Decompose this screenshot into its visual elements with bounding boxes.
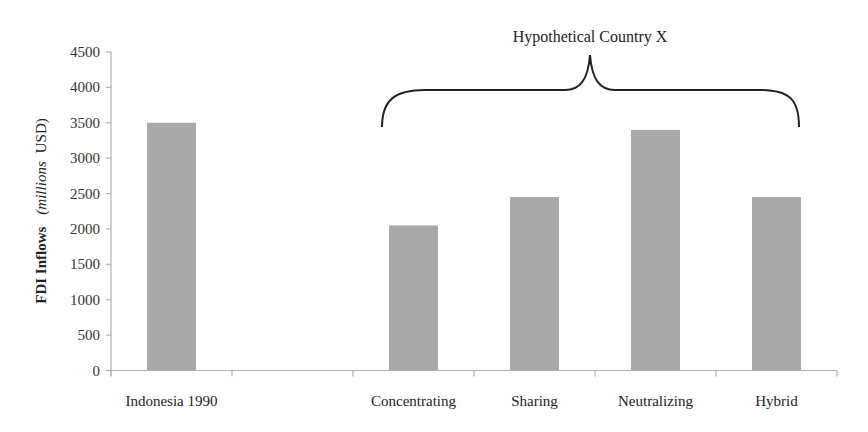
bar	[631, 130, 680, 371]
x-category-label: Neutralizing	[618, 393, 693, 409]
brace-annotation: Hypothetical Country X	[382, 28, 799, 127]
bar	[752, 197, 801, 370]
annotation-label: Hypothetical Country X	[513, 28, 668, 46]
svg-text:FDI Inflows (millions: FDI Inflows (millions USD)	[32, 118, 50, 303]
y-tick-label: 1000	[70, 292, 100, 308]
y-axis-title-bold: FDI Inflows	[33, 226, 49, 303]
y-tick-label: 3000	[70, 150, 100, 166]
x-category-label: Hybrid	[755, 393, 798, 409]
x-category-label: Sharing	[511, 393, 558, 409]
curly-brace	[382, 55, 799, 127]
y-tick-label: 500	[78, 327, 101, 343]
bar	[510, 197, 559, 370]
bars	[147, 123, 801, 371]
y-tick-label: 4500	[70, 44, 100, 60]
x-axis: Indonesia 1990ConcentratingSharingNeutra…	[111, 371, 837, 410]
y-tick-label: 4000	[70, 79, 100, 95]
bar	[389, 225, 438, 370]
y-axis-title-italic: millions	[33, 161, 49, 210]
x-category-label: Indonesia 1990	[125, 393, 217, 409]
y-tick-label: 1500	[70, 256, 100, 272]
y-axis-title: FDI Inflows (millions USD)	[32, 118, 50, 303]
y-axis-title-unit: USD	[33, 123, 49, 153]
y-tick-label: 2500	[70, 186, 100, 202]
y-tick-label: 0	[93, 363, 101, 379]
y-tick-label: 3500	[70, 115, 100, 131]
x-category-label: Concentrating	[371, 393, 456, 409]
y-tick-label: 2000	[70, 221, 100, 237]
bar-chart: 050010001500200025003000350040004500 Ind…	[0, 0, 868, 432]
bar	[147, 123, 196, 371]
y-axis: 050010001500200025003000350040004500	[70, 44, 111, 379]
